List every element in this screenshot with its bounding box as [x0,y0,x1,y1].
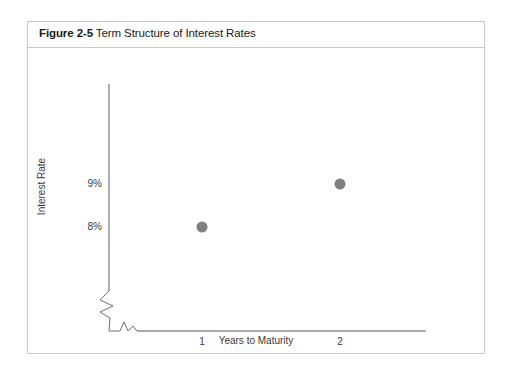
x-axis-title: Years to Maturity [28,335,484,346]
figure-header: Figure 2-5 Term Structure of Interest Ra… [28,22,484,48]
chart-svg [28,48,486,354]
figure-title: Figure 2-5 Term Structure of Interest Ra… [39,27,256,39]
y-tick-label-9pct: 9% [76,178,102,189]
y-axis-title: Interest Rate [36,147,47,227]
figure-number: Figure 2-5 [39,27,93,39]
figure-container: Figure 2-5 Term Structure of Interest Ra… [27,21,485,354]
plot-area: 9% 8% 1 2 Interest Rate Years to Maturit… [28,48,484,354]
figure-caption-text: Term Structure of Interest Rates [93,27,256,39]
y-tick-label-8pct: 8% [76,221,102,232]
data-point-1 [197,222,208,233]
data-point-2 [335,179,346,190]
axis-break-zigzag [100,291,137,331]
